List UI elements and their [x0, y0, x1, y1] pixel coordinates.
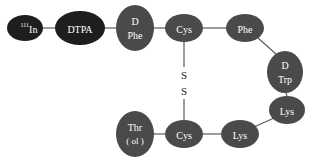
node-lys-bottom: Lys — [221, 120, 259, 148]
node-phe-label: Phe — [238, 24, 254, 35]
node-cys-bottom: Cys — [165, 120, 203, 148]
disulfide-s1: S — [181, 69, 187, 81]
node-throl-line2: ( ol ) — [126, 136, 144, 146]
node-dtrp-line1: D — [281, 60, 288, 71]
peptide-diagram: S S 111In DTPA D Phe Cys Phe D Trp Lys — [0, 0, 312, 164]
node-cys-bottom-label: Cys — [176, 130, 192, 141]
node-dphe-line1: D — [131, 16, 138, 27]
node-throl-line1: Thr — [128, 122, 143, 133]
node-dtrp-line2: Trp — [278, 74, 292, 85]
node-cys-top-label: Cys — [176, 24, 192, 35]
node-dtpa: DTPA — [55, 11, 105, 45]
node-lys-bottom-label: Lys — [233, 130, 248, 141]
node-lys-right: Lys — [269, 96, 305, 124]
node-lys-right-label: Lys — [280, 106, 295, 117]
node-in111-label: In — [29, 24, 37, 35]
node-phe: Phe — [226, 14, 264, 42]
node-in111: 111In — [7, 15, 43, 41]
disulfide-s2: S — [181, 85, 187, 97]
node-in111-sup: 111 — [21, 22, 30, 28]
node-dtpa-label: DTPA — [67, 24, 93, 35]
edge-dtrp-lys — [286, 93, 287, 96]
edge-phe-dtrp — [258, 38, 276, 54]
node-dphe-line2: Phe — [128, 30, 144, 41]
node-dtrp: D Trp — [267, 51, 303, 93]
node-dphe: D Phe — [116, 5, 154, 51]
edge-lys-lys — [254, 118, 274, 127]
node-throl: Thr ( ol ) — [116, 111, 154, 157]
node-cys-top: Cys — [165, 14, 203, 42]
